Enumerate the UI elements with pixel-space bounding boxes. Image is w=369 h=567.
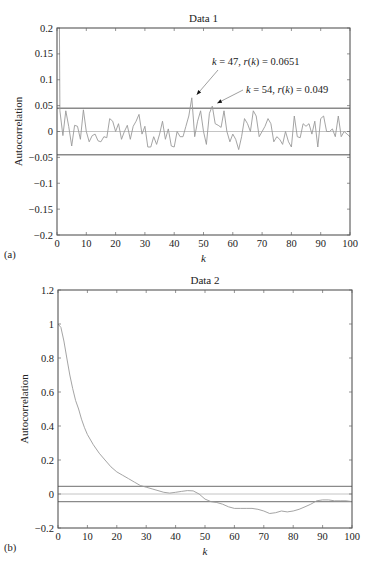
y-tick-label: −0.2 <box>34 230 53 241</box>
x-tick-label: 70 <box>259 531 270 542</box>
y-axis-label: Autocorrelation <box>18 374 30 444</box>
x-tick-label: 80 <box>286 238 297 249</box>
y-tick-label: 1 <box>49 319 54 330</box>
chart-title: Data 1 <box>189 12 218 24</box>
x-tick-label: 60 <box>229 531 240 542</box>
x-tick-label: 90 <box>317 531 328 542</box>
x-tick-label: 20 <box>112 531 123 542</box>
x-tick-label: 10 <box>82 531 93 542</box>
x-tick-label: 90 <box>315 238 326 249</box>
y-tick-label: 0.4 <box>41 421 55 432</box>
x-tick-label: 50 <box>198 238 209 249</box>
x-tick-label: 0 <box>54 238 59 249</box>
svg-text:k = 47, r(k) = 0.0651: k = 47, r(k) = 0.0651 <box>212 56 299 68</box>
plot-frame <box>58 290 352 528</box>
annotation-arrow <box>197 70 218 95</box>
x-tick-label: 70 <box>257 238 268 249</box>
panel-label: (b) <box>4 542 17 554</box>
annotation: k = 54, r(k) = 0.049 <box>217 84 328 103</box>
x-tick-label: 100 <box>342 238 358 249</box>
y-tick-label: 0.15 <box>35 48 53 59</box>
y-tick-label: 0.2 <box>41 455 54 466</box>
y-tick-label: −0.1 <box>34 178 53 189</box>
y-tick-label: 0.6 <box>41 387 54 398</box>
autocorrelation-chart-data1: Data 101020304050607080901000.20.150.10.… <box>0 0 369 280</box>
x-tick-label: 30 <box>141 531 152 542</box>
x-tick-label: 0 <box>55 531 60 542</box>
autocorrelation-series <box>58 324 352 514</box>
x-tick-label: 50 <box>200 531 211 542</box>
x-tick-label: 10 <box>81 238 92 249</box>
x-tick-label: 60 <box>228 238 239 249</box>
panel-label: (a) <box>4 249 16 261</box>
x-tick-label: 40 <box>169 238 180 249</box>
y-tick-label: 0 <box>48 126 53 137</box>
y-axis-label: Autocorrelation <box>12 96 24 166</box>
y-tick-label: −0.15 <box>29 204 53 215</box>
y-tick-label: 0.05 <box>35 100 53 111</box>
x-tick-label: 30 <box>140 238 151 249</box>
y-tick-label: 0 <box>49 489 54 500</box>
x-axis-label: k <box>203 545 209 557</box>
chart-panel-a: Data 101020304050607080901000.20.150.10.… <box>0 0 369 280</box>
svg-text:k = 54, r(k) = 0.049: k = 54, r(k) = 0.049 <box>246 84 328 96</box>
y-tick-label: 0.8 <box>41 353 54 364</box>
x-tick-label: 20 <box>110 238 121 249</box>
y-tick-label: 0.1 <box>40 74 53 85</box>
x-tick-label: 40 <box>170 531 181 542</box>
y-tick-label: −0.2 <box>35 523 54 534</box>
y-tick-label: −0.05 <box>29 152 53 163</box>
x-tick-label: 100 <box>344 531 360 542</box>
x-tick-label: 80 <box>288 531 299 542</box>
y-tick-label: 1.2 <box>41 285 54 296</box>
y-tick-label: 0.2 <box>40 23 53 34</box>
x-axis-label: k <box>201 252 207 264</box>
